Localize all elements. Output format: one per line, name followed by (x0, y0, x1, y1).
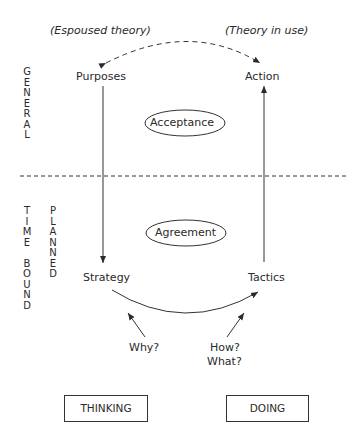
theory-in-use-label: (Theory in use) (225, 24, 308, 37)
node-tactics: Tactics (248, 271, 285, 284)
what-label: What? (207, 355, 242, 368)
side-label-planned: PLANNED (47, 206, 59, 280)
node-strategy: Strategy (83, 271, 130, 284)
thinking-box: THINKING (64, 395, 148, 422)
side-label-time-bound: TIMEBOUND (21, 206, 33, 311)
doing-box: DOING (226, 395, 309, 422)
ellipse-agreement-label: Agreement (155, 226, 216, 239)
node-action: Action (245, 70, 279, 83)
side-label-general: GENERAL (21, 67, 33, 141)
how-arrow (227, 313, 244, 337)
why-arrow (128, 313, 145, 337)
strategy-to-tactics-arrow (112, 290, 258, 313)
node-purposes: Purposes (76, 70, 126, 83)
dashed-arc-arrow (106, 42, 260, 64)
ellipse-acceptance-label: Acceptance (150, 116, 214, 129)
espoused-theory-label: (Espoused theory) (50, 24, 151, 37)
why-label: Why? (129, 341, 159, 354)
how-label: How? (210, 341, 240, 354)
